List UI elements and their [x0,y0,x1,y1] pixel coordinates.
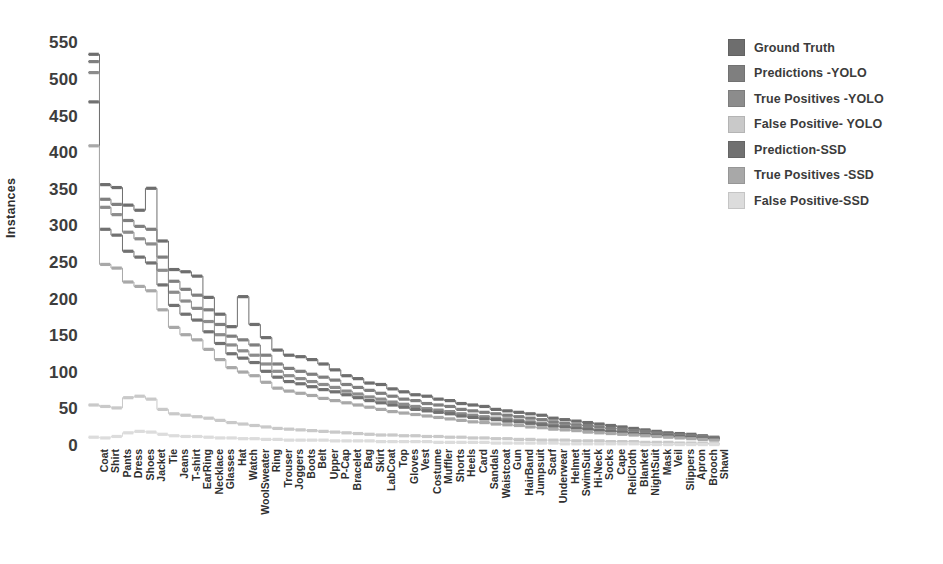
instances-chart: Instances 050100150200250300350400450500… [0,0,943,564]
legend-item[interactable]: True Positives -SSD [728,164,938,187]
x-tick-label: Necklace [213,449,225,495]
data-mark [146,187,156,190]
series-true-positives-ssd [88,144,720,442]
data-mark [617,442,627,445]
plot-area [88,36,720,446]
data-mark [250,374,260,377]
legend-swatch-icon [728,116,745,133]
data-mark [709,439,719,442]
legend-item[interactable]: Ground Truth [728,36,938,59]
data-mark [583,421,593,424]
data-mark [238,357,248,360]
data-mark [89,53,99,56]
series-ground-truth [88,53,720,439]
x-tick-label: Muffler [442,449,454,484]
legend-item[interactable]: True Positives -YOLO [728,87,938,110]
data-mark [537,414,547,417]
x-tick-label: Shawl [718,449,730,479]
data-mark [250,343,260,346]
data-mark [307,358,317,361]
data-mark [617,433,627,436]
data-mark [146,430,156,433]
data-mark [353,432,363,435]
data-mark [307,439,317,442]
data-mark [514,411,524,414]
x-tick-label: Apron [695,449,707,480]
data-mark [502,414,512,417]
legend-swatch-icon [728,167,745,184]
y-tick-label: 250 [49,253,78,273]
data-mark [100,405,110,408]
data-mark [640,434,650,437]
data-mark [686,437,696,440]
x-tick-label: LabCoat [385,449,397,491]
data-mark [158,433,168,436]
data-mark [376,408,386,411]
data-mark [560,442,570,445]
data-mark [123,431,133,434]
series-step-line [88,73,720,439]
data-mark [158,256,168,259]
data-mark [250,354,260,357]
data-mark [525,441,535,444]
legend-item[interactable]: Prediction-SSD [728,138,938,161]
legend-item-label: Ground Truth [754,41,835,55]
y-tick-label: 150 [49,326,78,346]
legend-item[interactable]: False Positive-SSD [728,189,938,212]
data-mark [479,436,489,439]
data-mark [100,228,110,231]
data-mark [364,433,374,436]
y-tick-label: 500 [49,70,78,90]
x-tick-label: Underwear [557,449,569,503]
data-mark [468,403,478,406]
data-mark [89,60,99,63]
data-mark [479,421,489,424]
data-mark [261,336,271,339]
data-mark [341,439,351,442]
data-mark [376,383,386,386]
data-mark [491,412,501,415]
legend-item[interactable]: Predictions -YOLO [728,62,938,85]
data-mark [479,441,489,444]
data-mark [181,414,191,417]
data-mark [410,393,420,396]
x-tick-label: T-shirt [190,449,202,481]
data-mark [560,422,570,425]
x-tick-label: Watch [247,449,259,480]
data-mark [227,343,237,346]
legend-item[interactable]: False Positive- YOLO [728,113,938,136]
data-mark [261,370,271,373]
x-tick-label: P-Cap [339,449,351,479]
data-mark [491,422,501,425]
data-mark [410,440,420,443]
data-mark [456,414,466,417]
data-mark [583,424,593,427]
data-mark [296,428,306,431]
data-mark [456,436,466,439]
data-mark [399,434,409,437]
data-mark [399,440,409,443]
data-mark [330,368,340,371]
data-mark [502,423,512,426]
data-mark [135,285,145,288]
data-mark [410,405,420,408]
data-mark [663,443,673,446]
data-mark [387,433,397,436]
data-mark [319,376,329,379]
y-tick-label: 50 [59,399,78,419]
data-mark [319,383,329,386]
x-tick-label: Brooch [707,449,719,486]
data-mark [445,436,455,439]
data-mark [387,387,397,390]
data-mark [548,441,558,444]
data-mark [296,370,306,373]
x-tick-label: Joggers [293,449,305,490]
data-mark [537,426,547,429]
x-tick-label: NightSuit [649,449,661,496]
y-tick-label: 100 [49,363,78,383]
data-mark [560,439,570,442]
data-mark [491,441,501,444]
data-mark [433,411,443,414]
data-mark [514,424,524,427]
data-mark [181,313,191,316]
